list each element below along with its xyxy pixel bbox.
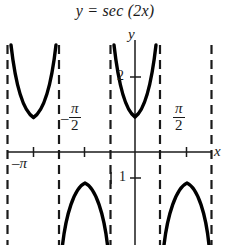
- y-tick-label-neg-one: 1: [119, 169, 126, 185]
- fraction-numerator: π: [69, 101, 81, 116]
- y-axis-label: y: [128, 26, 135, 43]
- fraction-denominator: 2: [69, 118, 81, 133]
- secant-branch-upward-left: [11, 45, 56, 118]
- pi-symbol: π: [20, 155, 28, 171]
- secant-branch-downward-left: [63, 183, 108, 245]
- neg-half-pi-minus-sign: –: [61, 110, 69, 127]
- y-tick-label-two: 2: [117, 68, 124, 84]
- plot-canvas: [0, 0, 230, 245]
- fraction-numerator: π: [173, 101, 185, 116]
- x-tick-label-half-pi: π 2: [173, 101, 185, 133]
- secant-graph-figure: y = sec (2x) y x –π 2 1 – π: [0, 0, 230, 245]
- x-tick-label-neg-half-pi: π 2: [69, 101, 81, 133]
- x-tick-label-neg-pi: –π: [12, 155, 27, 172]
- secant-branch-downward-right: [164, 183, 209, 245]
- x-axis-label: x: [214, 143, 221, 160]
- minus-sign: –: [12, 155, 20, 171]
- fraction-denominator: 2: [173, 118, 185, 133]
